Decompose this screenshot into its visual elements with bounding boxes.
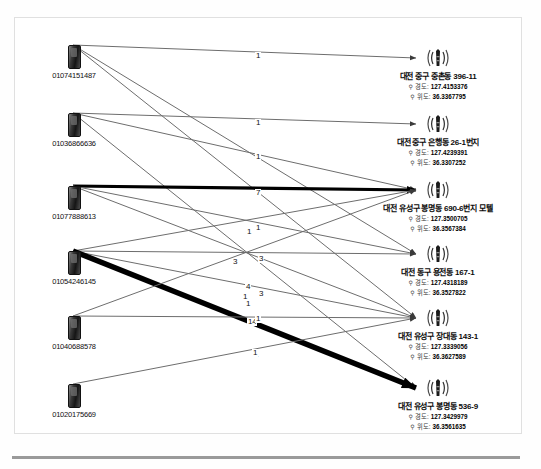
latitude-line: ⚲ 위도: 36.3561635 xyxy=(358,422,518,431)
mobile-phone-icon xyxy=(68,113,81,137)
longitude-line: ⚲ 경도: 127.4239391 xyxy=(358,148,518,157)
longitude-key: 경도: xyxy=(415,148,429,157)
edge-weight-label: 4 xyxy=(245,283,251,291)
target-address: 대전 중구 중촌동 396-11 xyxy=(358,70,518,81)
pin-icon: ⚲ xyxy=(409,83,413,90)
target-address: 대전 유성구 봉명동 536-9 xyxy=(358,400,518,411)
target-address: 대전 동구 용전동 167-1 xyxy=(358,266,518,277)
pin-icon: ⚲ xyxy=(410,159,414,166)
mobile-phone-icon xyxy=(68,45,81,69)
edge-weight-label: 1 xyxy=(245,300,251,308)
cell-tower-icon xyxy=(423,113,453,135)
source-node-label: 01020175669 xyxy=(46,410,102,419)
source-node-label: 01036866636 xyxy=(46,139,102,148)
longitude-line: ⚲ 경도: 127.4153376 xyxy=(358,82,518,91)
longitude-line: ⚲ 경도: 127.3429979 xyxy=(358,412,518,421)
pin-icon: ⚲ xyxy=(409,279,413,286)
target-node[interactable]: 대전 유성구 장대동 143-1 ⚲ 경도: 127.3339056 ⚲ 위도:… xyxy=(358,307,518,361)
target-node[interactable]: 대전 유성구 봉명동 690-6번지 모텔 ⚲ 경도: 127.3500705 … xyxy=(358,179,518,233)
longitude-key: 경도: xyxy=(415,278,429,287)
cell-tower-icon xyxy=(423,243,453,265)
latitude-line: ⚲ 위도: 36.3627589 xyxy=(358,352,518,361)
longitude-value: 127.3339056 xyxy=(431,343,468,350)
source-node[interactable]: 01054246145 xyxy=(46,251,102,286)
longitude-value: 127.3500705 xyxy=(431,215,468,222)
source-node-label: 01054246145 xyxy=(46,277,102,286)
latitude-key: 위도: xyxy=(417,224,431,233)
source-node-label: 01077888613 xyxy=(46,212,102,221)
edge-weight-label: 1 xyxy=(255,52,261,60)
source-node[interactable]: 01074151487 xyxy=(46,45,102,80)
longitude-key: 경도: xyxy=(415,82,429,91)
latitude-value: 36.3561635 xyxy=(432,423,465,430)
pin-icon: ⚲ xyxy=(410,225,414,232)
longitude-line: ⚲ 경도: 127.4318189 xyxy=(358,278,518,287)
target-node[interactable]: 대전 유성구 봉명동 536-9 ⚲ 경도: 127.3429979 ⚲ 위도:… xyxy=(358,377,518,431)
edge-weight-label: 1 xyxy=(255,153,261,161)
target-node[interactable]: 대전 중구 은행동 26-1번지 ⚲ 경도: 127.4239391 ⚲ 위도:… xyxy=(358,113,518,167)
source-node[interactable]: 01040688578 xyxy=(46,316,102,351)
pin-icon: ⚲ xyxy=(409,413,413,420)
longitude-value: 127.4153376 xyxy=(431,83,468,90)
edge-weight-label: 1 xyxy=(255,119,261,127)
latitude-line: ⚲ 위도: 36.3307252 xyxy=(358,158,518,167)
cell-tower-icon xyxy=(423,47,453,69)
cell-tower-icon xyxy=(423,377,453,399)
edge-weight-label: 3 xyxy=(258,290,264,298)
pin-icon: ⚲ xyxy=(409,215,413,222)
cell-tower-icon xyxy=(423,307,453,329)
pin-icon: ⚲ xyxy=(410,289,414,296)
latitude-value: 36.3627589 xyxy=(432,353,465,360)
source-node[interactable]: 01036866636 xyxy=(46,113,102,148)
latitude-line: ⚲ 위도: 36.3567384 xyxy=(358,224,518,233)
longitude-key: 경도: xyxy=(415,214,429,223)
longitude-key: 경도: xyxy=(415,342,429,351)
source-node-label: 01040688578 xyxy=(46,342,102,351)
longitude-value: 127.3429979 xyxy=(431,413,468,420)
latitude-key: 위도: xyxy=(417,422,431,431)
latitude-value: 36.3527822 xyxy=(432,289,465,296)
pin-icon: ⚲ xyxy=(409,149,413,156)
longitude-value: 127.4239391 xyxy=(431,149,468,156)
latitude-key: 위도: xyxy=(417,92,431,101)
edge-weight-label: 7 xyxy=(255,189,261,197)
edge-weight-label: 1 xyxy=(252,349,258,357)
longitude-key: 경도: xyxy=(415,412,429,421)
edge-weight-label: 1 xyxy=(246,228,252,236)
target-address: 대전 중구 은행동 26-1번지 xyxy=(358,136,518,147)
mobile-phone-icon xyxy=(68,316,81,340)
latitude-value: 36.3567384 xyxy=(432,225,465,232)
edge-weight-label: 3 xyxy=(258,255,264,263)
target-address: 대전 유성구 장대동 143-1 xyxy=(358,330,518,341)
footer-rule xyxy=(12,456,520,459)
edge-weight-label: 3 xyxy=(232,258,238,266)
latitude-key: 위도: xyxy=(417,288,431,297)
longitude-value: 127.4318189 xyxy=(431,279,468,286)
target-node[interactable]: 대전 중구 중촌동 396-11 ⚲ 경도: 127.4153376 ⚲ 위도:… xyxy=(358,47,518,101)
latitude-value: 36.3307252 xyxy=(432,159,465,166)
source-node-label: 01074151487 xyxy=(46,71,102,80)
latitude-line: ⚲ 위도: 36.3367795 xyxy=(358,92,518,101)
latitude-value: 36.3367795 xyxy=(432,93,465,100)
mobile-phone-icon xyxy=(68,384,81,408)
mobile-phone-icon xyxy=(68,186,81,210)
latitude-key: 위도: xyxy=(417,352,431,361)
edge-weight-label: 1 xyxy=(255,315,261,323)
latitude-key: 위도: xyxy=(417,158,431,167)
scanned-page: 01074151487 01036866636 01077888613 0105… xyxy=(0,0,541,469)
target-address: 대전 유성구 봉명동 690-6번지 모텔 xyxy=(358,202,518,213)
pin-icon: ⚲ xyxy=(409,343,413,350)
source-node[interactable]: 01020175669 xyxy=(46,384,102,419)
source-node[interactable]: 01077888613 xyxy=(46,186,102,221)
mobile-phone-icon xyxy=(68,251,81,275)
longitude-line: ⚲ 경도: 127.3339056 xyxy=(358,342,518,351)
longitude-line: ⚲ 경도: 127.3500705 xyxy=(358,214,518,223)
pin-icon: ⚲ xyxy=(410,93,414,100)
cell-tower-icon xyxy=(423,179,453,201)
edge-weight-label: 1 xyxy=(255,224,261,232)
latitude-line: ⚲ 위도: 36.3527822 xyxy=(358,288,518,297)
target-node[interactable]: 대전 동구 용전동 167-1 ⚲ 경도: 127.4318189 ⚲ 위도: … xyxy=(358,243,518,297)
pin-icon: ⚲ xyxy=(410,423,414,430)
pin-icon: ⚲ xyxy=(410,353,414,360)
